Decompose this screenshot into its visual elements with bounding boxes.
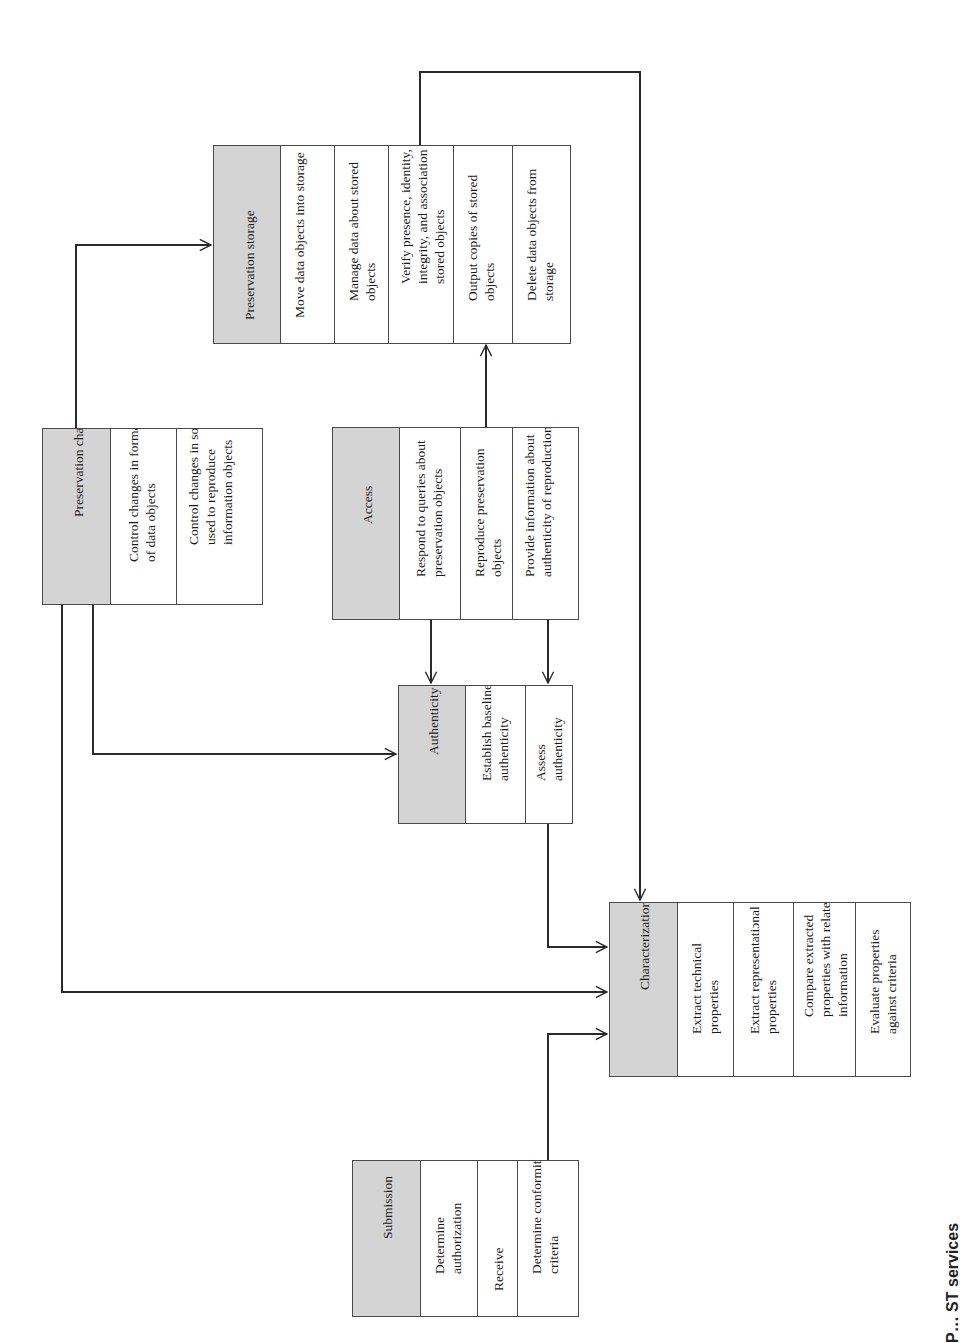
node-title: Submission — [379, 1175, 415, 1238]
node-title: Preservation change — [70, 429, 111, 517]
node-item: Compare extracted properties with relate… — [794, 903, 856, 1076]
node-submission: Submission Determine authorization Recei… — [352, 1160, 579, 1317]
node-item: Reproduce preservation objects — [461, 428, 513, 619]
node-access: Access Respond to queries about preserva… — [332, 427, 579, 620]
node-item: Determine conformity to criteria — [518, 1161, 578, 1316]
node-item: Establish baseline authenticity — [466, 686, 526, 823]
node-item: Extract representatiɔnal properties — [734, 903, 794, 1076]
edge-change-to-storage — [76, 245, 211, 428]
node-preservation-change: Preservation change Control changes in f… — [42, 428, 263, 605]
node-item: Respond to queries about preservation ob… — [400, 428, 461, 619]
edge-change-to-authenticity — [93, 604, 396, 754]
node-item: Receive — [478, 1161, 518, 1316]
figure-caption-fragment: P… ST services — [944, 1223, 960, 1343]
node-item: Determine authorization — [421, 1161, 478, 1316]
node-authenticity: Authenticity Establish baseline authenti… — [398, 685, 573, 824]
node-item: Extract technical properties — [678, 903, 734, 1076]
node-header: Authenticity — [399, 686, 466, 823]
node-header: Characterizatior — [610, 903, 678, 1076]
node-item: Assess authenticity — [526, 686, 572, 823]
node-item: Control changes in software used to repr… — [177, 429, 262, 604]
node-item: Output copies of stored objects — [454, 146, 513, 343]
node-title: Preservation storage — [241, 210, 258, 320]
edge-authenticity-to-characterization — [548, 823, 607, 947]
node-title: Characterizatior — [636, 903, 678, 990]
node-header: Preservation storage — [214, 146, 281, 343]
node-header: Access — [333, 428, 400, 619]
node-item: Verify presence, identity, integrity, an… — [389, 146, 454, 343]
node-header: Preservation change — [43, 429, 111, 604]
node-item: Evaluate properties against criteria — [856, 903, 910, 1076]
node-item: Manage data about stored objects — [335, 146, 389, 343]
node-title: Authenticity — [425, 687, 466, 755]
node-item: Control changes in formats of data objec… — [111, 429, 177, 604]
node-header: Submission — [353, 1161, 421, 1316]
node-item: Provide information about authenticity o… — [513, 428, 578, 619]
node-title: Access — [359, 485, 387, 523]
node-preservation-storage: Preservation storage Move data objects i… — [213, 145, 571, 344]
node-characterization: Characterizatior Extract technical prope… — [609, 902, 911, 1077]
edge-submission-to-characterization — [548, 1034, 607, 1160]
node-item: Delete data objects from storage — [513, 146, 570, 343]
node-item: Move data objects into storage — [281, 146, 335, 343]
